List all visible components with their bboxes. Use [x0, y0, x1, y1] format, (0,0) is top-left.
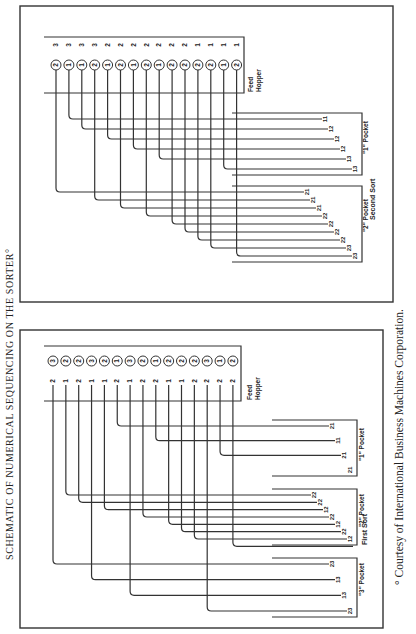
sorter-schematic: SCHEMATIC OF NUMERICAL SEQUENCING ON THE… [0, 0, 416, 634]
svg-text:3: 3 [88, 359, 95, 363]
svg-text:1: 1 [165, 379, 172, 383]
stack-card-label: 22 [311, 491, 317, 498]
svg-text:2: 2 [155, 43, 162, 47]
card: 22 [74, 356, 84, 383]
pocket-1: "1" Pocket [232, 113, 369, 175]
first-sort-panel: Feed Hopper 3221223121123122122121223212… [20, 330, 383, 628]
pocket-label: "3" Pocket [358, 562, 365, 596]
stack-card-label: 22 [317, 498, 323, 505]
stack-card-label: 23 [329, 560, 335, 567]
svg-text:1: 1 [207, 43, 214, 47]
sort-label: Second Sort [369, 178, 376, 220]
card: 12 [103, 43, 113, 70]
panel-frame [20, 6, 393, 302]
svg-text:1: 1 [113, 359, 120, 363]
card: 31 [125, 356, 135, 383]
second-sort-panel: Feed Hopper 2313132312221222122222212111… [20, 6, 393, 302]
svg-text:2: 2 [207, 63, 214, 67]
stack-card-label: 13 [346, 155, 352, 162]
svg-text:2: 2 [229, 359, 236, 363]
svg-text:2: 2 [216, 379, 223, 383]
svg-text:2: 2 [117, 43, 124, 47]
svg-text:1: 1 [62, 379, 69, 383]
pocket-label: "1" Pocket [362, 120, 369, 154]
svg-text:1: 1 [155, 63, 162, 67]
svg-text:2: 2 [152, 379, 159, 383]
stack-card-label: 22 [328, 220, 334, 227]
svg-text:1: 1 [216, 359, 223, 363]
card: 13 [64, 43, 74, 70]
card: 21 [193, 43, 203, 70]
card: 12 [215, 356, 225, 383]
svg-text:1: 1 [65, 63, 72, 67]
svg-text:1: 1 [220, 63, 227, 67]
card: 32 [202, 356, 212, 383]
svg-text:2: 2 [233, 63, 240, 67]
svg-text:2: 2 [49, 379, 56, 383]
card: 22 [141, 43, 151, 70]
svg-text:2: 2 [117, 63, 124, 67]
stack-card-label: 21 [329, 422, 335, 429]
stack-card-label: 12 [328, 125, 334, 132]
stack-card-label: 23 [346, 244, 352, 251]
card: 32 [48, 356, 58, 383]
stack-card-label: 23 [352, 252, 358, 259]
stack-card-label: 21 [347, 466, 353, 473]
svg-text:2: 2 [139, 379, 146, 383]
feed-hopper-label: Hopper [254, 377, 262, 400]
stack-card-label: 13 [335, 576, 341, 583]
svg-text:1: 1 [126, 379, 133, 383]
wires [56, 70, 352, 256]
card: 21 [177, 356, 187, 383]
svg-text:2: 2 [168, 43, 175, 47]
card: 22 [228, 356, 238, 383]
stack-card-label: 22 [341, 528, 347, 535]
pocket-label: "1" Pocket [358, 427, 365, 461]
svg-text:1: 1 [88, 379, 95, 383]
stack-card-label: 21 [310, 196, 316, 203]
stack-card-label: 21 [304, 188, 310, 195]
diagram-title: SCHEMATIC OF NUMERICAL SEQUENCING ON THE… [4, 248, 15, 560]
stack-card-label: 12 [335, 520, 341, 527]
svg-text:1: 1 [101, 379, 108, 383]
svg-text:3: 3 [203, 359, 210, 363]
svg-text:2: 2 [62, 359, 69, 363]
stack-card-label: 23 [347, 607, 353, 614]
svg-text:3: 3 [49, 359, 56, 363]
svg-text:2: 2 [178, 359, 185, 363]
stack-card-label: 11 [335, 437, 341, 444]
card: 11 [219, 43, 229, 70]
stack-card-label: 12 [347, 535, 353, 542]
svg-text:2: 2 [104, 43, 111, 47]
sort-label: First Sort [361, 513, 368, 545]
svg-text:2: 2 [143, 43, 150, 47]
stack-card-label: 13 [352, 165, 358, 172]
svg-text:2: 2 [75, 359, 82, 363]
stack-card-label: 22 [340, 236, 346, 243]
svg-text:3: 3 [52, 43, 59, 47]
feed-hopper-label: Hopper [255, 69, 263, 92]
svg-text:3: 3 [78, 43, 85, 47]
svg-text:1: 1 [78, 63, 85, 67]
svg-text:3: 3 [126, 359, 133, 363]
card: 22 [167, 43, 177, 70]
svg-text:1: 1 [220, 43, 227, 47]
svg-text:2: 2 [194, 63, 201, 67]
svg-text:2: 2 [143, 63, 150, 67]
card-deck: 231313231222122212222221211121 [51, 43, 242, 70]
card: 21 [61, 356, 71, 383]
stack-card-label: 22 [322, 212, 328, 219]
card: 21 [206, 43, 216, 70]
svg-text:1: 1 [152, 359, 159, 363]
svg-text:2: 2 [181, 63, 188, 67]
card: 21 [164, 356, 174, 383]
stack-card-label: 13 [341, 591, 347, 598]
svg-text:2: 2 [168, 63, 175, 67]
pocket-label: "2" Pocket [362, 198, 369, 232]
svg-text:2: 2 [52, 63, 59, 67]
card: 22 [189, 356, 199, 383]
svg-text:1: 1 [194, 43, 201, 47]
svg-text:2: 2 [203, 379, 210, 383]
wires [53, 385, 353, 611]
svg-text:2: 2 [75, 379, 82, 383]
